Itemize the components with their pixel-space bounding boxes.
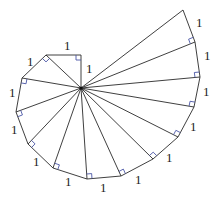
edge-length-label: 1	[190, 119, 197, 134]
edge-length-label: 1	[9, 85, 16, 100]
edge-length-label: 1	[65, 174, 72, 189]
edge-length-label: 1	[27, 54, 34, 69]
edge-length-label: 1	[204, 48, 211, 63]
radial-segment	[53, 88, 81, 168]
radial-segment	[81, 10, 183, 88]
edge-length-label: 1	[135, 172, 142, 187]
edge-length-label: 1	[203, 84, 210, 99]
radial-segment	[81, 88, 178, 137]
right-angle-marker	[194, 72, 199, 77]
right-angle-marker	[149, 152, 156, 156]
edge-length-label: 1	[33, 154, 40, 169]
edge-length-label: 1	[11, 122, 18, 137]
edge-length-label: 1	[196, 15, 203, 30]
unit-edge	[16, 78, 22, 112]
radial-segment	[16, 88, 81, 112]
radial-segment	[81, 77, 200, 88]
spiral-of-theodorus-diagram: 11111111111111	[0, 0, 218, 201]
edge-length-label: 1	[86, 61, 93, 76]
right-angle-marker	[42, 58, 49, 61]
radial-segment	[81, 42, 195, 88]
radial-segment	[28, 88, 81, 144]
center-point	[79, 86, 82, 89]
edge-length-label: 1	[100, 180, 107, 195]
edge-length-label: 1	[64, 38, 71, 53]
radial-segment	[81, 88, 121, 176]
right-angle-marker	[87, 174, 92, 179]
right-angle-marker	[31, 140, 35, 147]
edge-length-label: 1	[166, 150, 173, 165]
unit-edge	[183, 10, 195, 42]
radial-segment	[81, 88, 87, 179]
right-angle-marker	[76, 55, 81, 60]
unit-edge	[28, 144, 53, 168]
